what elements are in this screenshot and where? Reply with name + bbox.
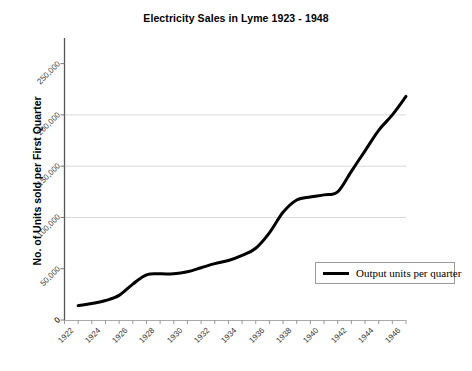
legend-line-swatch bbox=[323, 272, 349, 275]
plot-area bbox=[0, 0, 472, 371]
legend[interactable]: Output units per quarter bbox=[315, 262, 455, 284]
legend-label: Output units per quarter bbox=[356, 267, 461, 279]
chart-container: Electricity Sales in Lyme 1923 - 1948 No… bbox=[0, 0, 472, 371]
